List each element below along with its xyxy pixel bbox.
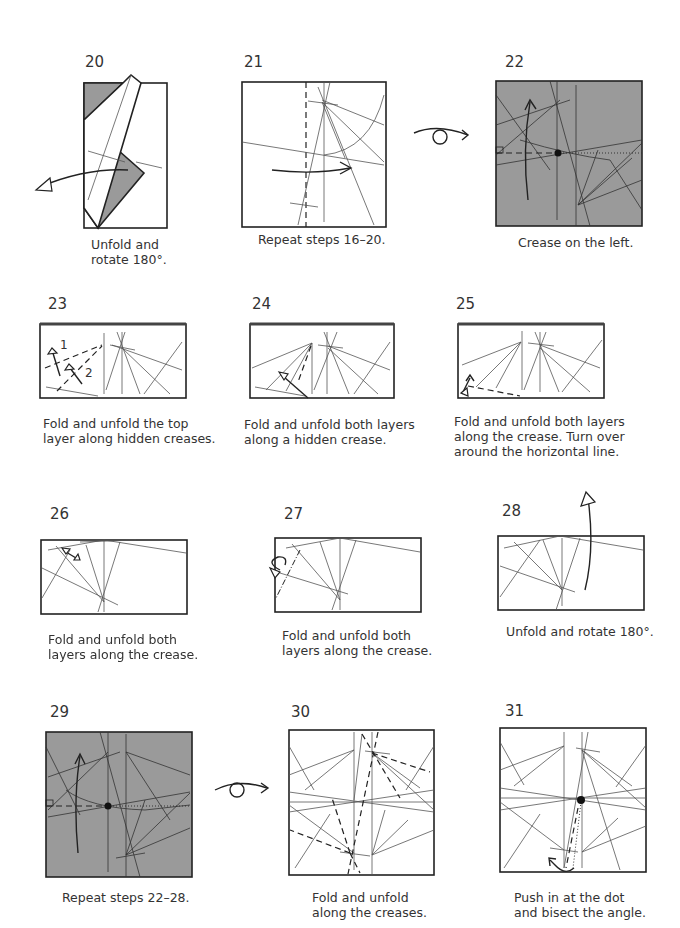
step-21: 21 Repeat steps 16–20. <box>230 0 410 280</box>
reference-dot <box>555 150 562 157</box>
step-caption: Fold and unfold both layers along the cr… <box>48 632 198 662</box>
step-30: 30 Fold and unfold along the creases. <box>270 690 470 928</box>
step-20: 20 Unfold and rotate 180°. <box>0 0 230 280</box>
step-28: 28 Unfold and rotate 180°. <box>450 480 680 660</box>
step-23: 23 1 2 Fold and unfold the top layer alo… <box>0 290 230 470</box>
step-label-2: 2 <box>85 366 93 380</box>
step-caption: Push in at the dot and bisect the angle. <box>514 890 646 920</box>
reference-dot <box>105 803 112 810</box>
step-caption: Repeat steps 22–28. <box>62 890 190 905</box>
step-22: 22 Crease on the left. <box>490 0 680 280</box>
step-24: 24 Fold and unfold both layers along a h… <box>230 290 440 470</box>
step-26: 26 Fold and unfold both layers along the… <box>0 490 230 670</box>
step-31: 31 Push in at the dot and bisect the ang… <box>470 690 680 928</box>
step-caption: Crease on the left. <box>518 235 633 250</box>
step-caption: Fold and unfold both layers along the cr… <box>282 628 432 658</box>
step-25: 25 Fold and unfold both layers along the… <box>440 290 680 470</box>
step-27: 27 Fold and unfold both layers along the… <box>230 490 460 670</box>
step-caption: Fold and unfold both layers along the cr… <box>454 414 625 459</box>
step-caption: Fold and unfold both layers along a hidd… <box>244 417 415 447</box>
turn-over-icon <box>412 125 482 165</box>
step-29: 29 Repeat steps 22–28. <box>0 690 210 928</box>
step-caption: Fold and unfold along the creases. <box>312 890 427 920</box>
step-label-1: 1 <box>60 338 68 352</box>
step-caption: Unfold and rotate 180°. <box>506 624 654 639</box>
step-caption: Unfold and rotate 180°. <box>91 237 167 267</box>
step-caption: Repeat steps 16–20. <box>258 232 386 247</box>
step-caption: Fold and unfold the top layer along hidd… <box>43 416 216 446</box>
push-dot <box>577 796 585 804</box>
